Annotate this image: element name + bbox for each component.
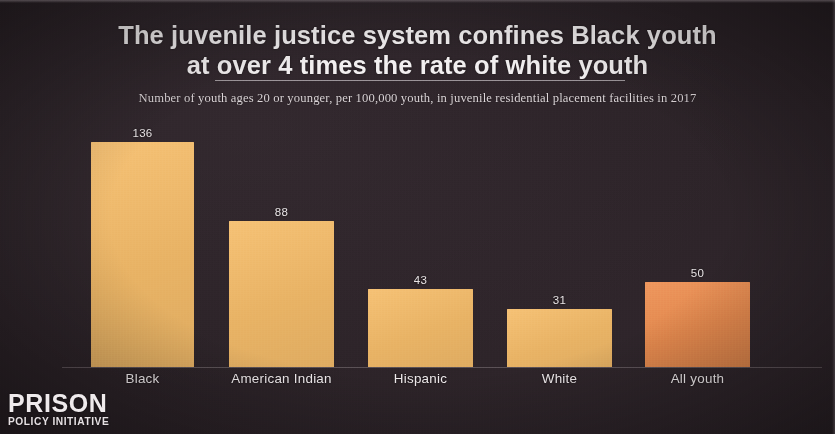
bar-sheen [229, 221, 334, 367]
category-label-hispanic: Hispanic [346, 371, 495, 386]
bar-sheen [645, 282, 750, 367]
bar-all-youth [645, 282, 750, 367]
bar-value-all-youth: 50 [645, 267, 750, 279]
bar-sheen [368, 289, 473, 367]
logo-primary-text: PRISON [8, 391, 109, 416]
bar-value-hispanic: 43 [368, 274, 473, 286]
bar-sheen [91, 142, 194, 367]
category-label-white: White [485, 371, 634, 386]
logo-secondary-text: POLICY INITIATIVE [8, 416, 109, 428]
bar-value-black: 136 [91, 127, 194, 139]
x-axis-baseline [62, 367, 822, 368]
category-label-american-indian: American Indian [207, 371, 356, 386]
bar-hispanic [368, 289, 473, 367]
category-label-black: Black [69, 371, 216, 386]
bar-value-american-indian: 88 [229, 206, 334, 218]
bar-american-indian [229, 221, 334, 367]
bar-value-white: 31 [507, 294, 612, 306]
top-edge-highlight [0, 0, 835, 3]
bar-sheen [507, 309, 612, 367]
infographic-chart: The juvenile justice system confines Bla… [0, 0, 835, 434]
plot-area: 136Black88American Indian43Hispanic31Whi… [0, 0, 835, 434]
prison-policy-initiative-logo: PRISON POLICY INITIATIVE [8, 391, 109, 428]
bar-white [507, 309, 612, 367]
bar-black [91, 142, 194, 367]
category-label-all-youth: All youth [623, 371, 772, 386]
